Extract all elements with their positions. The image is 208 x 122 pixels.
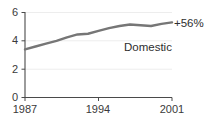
x-axis-label-2001: 2001 — [152, 104, 192, 115]
y-axis-label-2: 2 — [2, 64, 18, 75]
end-annotation-percent: +56% — [174, 17, 204, 29]
y-axis-label-4: 4 — [2, 35, 18, 46]
x-axis-label-1987: 1987 — [5, 104, 45, 115]
x-axis-label-1994: 1994 — [78, 104, 118, 115]
y-axis-label-6: 6 — [2, 7, 18, 18]
series-label-domestic: Domestic — [124, 41, 172, 53]
line-chart: 6 4 2 0 1987 1994 2001 +56% Domestic — [0, 0, 208, 122]
y-axis-label-0: 0 — [2, 92, 18, 103]
